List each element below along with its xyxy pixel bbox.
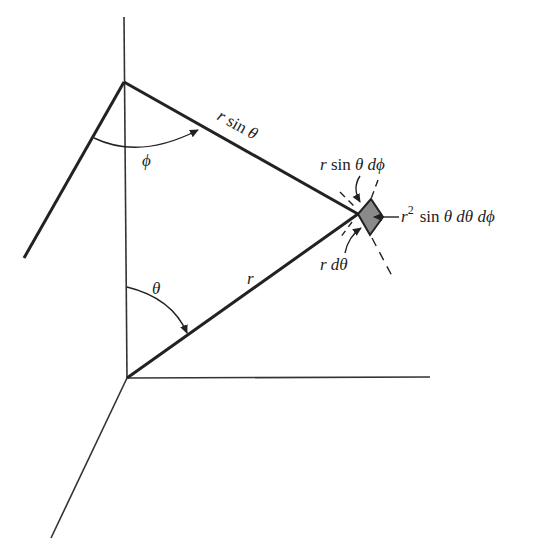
r-sin-theta-line	[124, 82, 358, 214]
x-axis	[51, 378, 127, 538]
r-line	[127, 214, 358, 378]
label-theta: θ	[152, 279, 160, 298]
label-r: r	[247, 269, 254, 288]
r-dtheta-arrow	[345, 228, 361, 253]
phi-arc	[94, 130, 198, 147]
y-axis	[127, 377, 430, 378]
label-phi: ϕ	[142, 151, 151, 170]
label-r-sin-theta-dphi: r sin θ dϕ	[320, 155, 385, 174]
spherical-coordinates-diagram: r sin θ ϕ θ r r sin θ dϕ r dθ r2sin θ dθ…	[0, 0, 549, 550]
dashed-guide	[371, 180, 378, 199]
label-volume-element: r2sin θ dθ dϕ	[401, 203, 495, 226]
projection-line	[24, 82, 124, 258]
dashed-guide	[372, 238, 392, 276]
r-sin-theta-dphi-arrow	[356, 176, 360, 202]
z-axis	[124, 17, 127, 378]
diagram-canvas: r sin θ ϕ θ r r sin θ dϕ r dθ r2sin θ dθ…	[0, 0, 549, 550]
label-r-dtheta: r dθ	[320, 255, 348, 274]
